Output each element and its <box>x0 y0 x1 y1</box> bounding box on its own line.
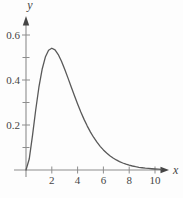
y-tick-label: 0.4 <box>6 74 20 86</box>
x-tick-label: 10 <box>150 174 162 186</box>
y-tick-label: 0.6 <box>6 29 20 41</box>
y-axis-label: y <box>26 0 33 12</box>
y-tick-label: 0.2 <box>6 119 20 131</box>
curve-path <box>26 48 161 170</box>
x-axis-arrow-icon <box>161 167 170 173</box>
function-plot-svg: 2468100.20.40.6yx <box>0 0 183 198</box>
y-axis-arrow-icon <box>23 16 29 26</box>
x-tick-label: 6 <box>101 174 107 186</box>
x-tick-label: 4 <box>75 174 81 186</box>
x-tick-label: 8 <box>126 174 132 186</box>
x-tick-label: 2 <box>49 174 55 186</box>
x-axis-label: x <box>172 163 179 177</box>
function-plot-figure: 2468100.20.40.6yx <box>0 0 183 198</box>
